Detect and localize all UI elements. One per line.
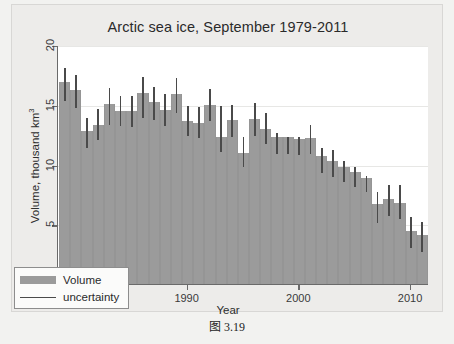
- uncertainty-bar-1998: [276, 133, 278, 153]
- x-tick-label-1990: 1990: [174, 292, 198, 304]
- uncertainty-bar-2011: [421, 222, 423, 252]
- uncertainty-bar-2004: [343, 161, 345, 183]
- uncertainty-bar-1981: [86, 118, 88, 148]
- uncertainty-bar-2003: [332, 150, 334, 177]
- y-tick-label-20: 20: [44, 39, 56, 51]
- uncertainty-bar-2009: [399, 185, 401, 220]
- uncertainty-bar-1989: [176, 78, 178, 113]
- uncertainty-bar-1984: [120, 96, 122, 126]
- uncertainty-layer: [58, 46, 428, 284]
- x-tick-mark-2000: [298, 285, 299, 290]
- uncertainty-bar-2005: [354, 167, 356, 187]
- uncertainty-bar-2000: [298, 137, 300, 155]
- legend-bar-swatch-icon: [20, 276, 56, 284]
- x-tick-label-2000: 2000: [286, 292, 310, 304]
- uncertainty-bar-1988: [164, 94, 166, 126]
- uncertainty-bar-1992: [209, 89, 211, 121]
- plot-area: [57, 46, 428, 285]
- uncertainty-bar-1985: [131, 96, 133, 127]
- uncertainty-bar-1987: [153, 87, 155, 120]
- y-tick-label-10: 10: [44, 158, 56, 170]
- uncertainty-bar-1986: [142, 77, 144, 118]
- uncertainty-bar-1993: [220, 106, 222, 153]
- uncertainty-bar-2010: [410, 217, 412, 248]
- uncertainty-bar-1999: [287, 137, 289, 154]
- chart-figure: Arctic sea ice, September 1979-2011 Volu…: [11, 4, 443, 312]
- chart-legend: Volume uncertainty: [14, 267, 129, 309]
- uncertainty-bar-1994: [231, 105, 233, 137]
- legend-label-uncertainty: uncertainty: [63, 291, 119, 303]
- uncertainty-bar-1991: [198, 107, 200, 138]
- y-tick-label-5: 5: [44, 221, 56, 227]
- chart-title: Arctic sea ice, September 1979-2011: [12, 19, 444, 35]
- uncertainty-bar-1982: [97, 109, 99, 140]
- uncertainty-bar-2001: [310, 125, 312, 154]
- legend-item-volume: Volume: [20, 273, 119, 287]
- y-axis-ticks: 05101520: [12, 5, 57, 311]
- uncertainty-bar-2007: [377, 192, 379, 223]
- uncertainty-bar-1995: [243, 137, 245, 167]
- figure-caption: 图 3.19: [0, 317, 454, 335]
- uncertainty-bar-1979: [64, 68, 66, 101]
- legend-label-volume: Volume: [63, 274, 101, 286]
- uncertainty-bar-2006: [366, 176, 368, 192]
- uncertainty-bar-2008: [388, 185, 390, 216]
- uncertainty-bar-1996: [254, 103, 256, 135]
- legend-item-uncertainty: uncertainty: [20, 290, 119, 304]
- x-tick-label-2010: 2010: [398, 292, 422, 304]
- uncertainty-bar-1997: [265, 113, 267, 144]
- uncertainty-bar-1983: [109, 88, 111, 125]
- y-tick-label-15: 15: [44, 99, 56, 111]
- uncertainty-bar-1980: [75, 75, 77, 108]
- x-tick-mark-1990: [187, 285, 188, 290]
- x-tick-mark-2010: [410, 285, 411, 290]
- uncertainty-bar-1990: [187, 106, 189, 136]
- legend-line-swatch-icon: [20, 297, 56, 298]
- uncertainty-bar-2002: [321, 148, 323, 173]
- page-canvas: Arctic sea ice, September 1979-2011 Volu…: [0, 0, 454, 344]
